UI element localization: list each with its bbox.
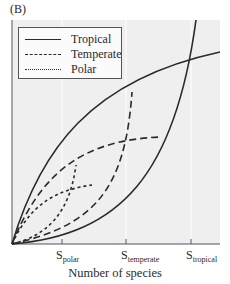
- xtick-sub: temperate: [128, 255, 160, 264]
- legend-item-temperate: Temperate: [25, 47, 121, 62]
- legend-label: Polar: [71, 62, 96, 77]
- x-axis-label: Number of species: [0, 266, 230, 281]
- xtick-label-tropical: Stropical: [186, 248, 217, 264]
- legend-label: Temperate: [71, 47, 121, 62]
- legend-item-polar: Polar: [25, 62, 96, 77]
- xtick-label-temperate: Stemperate: [121, 248, 159, 264]
- long-dash-line-icon: [25, 54, 61, 55]
- legend-label: Tropical: [71, 32, 111, 47]
- legend: Tropical Temperate Polar: [18, 27, 122, 79]
- short-dash-line-icon: [25, 69, 61, 70]
- xtick-sub: tropical: [193, 255, 217, 264]
- xtick-main: S: [121, 248, 128, 262]
- xtick-label-polar: Spolar: [56, 248, 79, 264]
- xtick-sub: polar: [63, 255, 79, 264]
- solid-line-icon: [25, 39, 61, 40]
- legend-item-tropical: Tropical: [25, 32, 111, 47]
- xtick-main: S: [56, 248, 63, 262]
- xtick-main: S: [186, 248, 193, 262]
